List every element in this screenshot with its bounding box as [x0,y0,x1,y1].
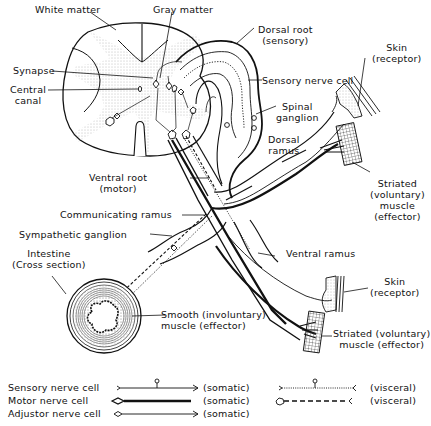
label-communicating-ramus: Communicating ramus [60,209,172,220]
communicating-ramus [116,208,226,302]
label-ventral-root: Ventral root (motor) [89,172,147,194]
label-spinal-ganglion: Spinal ganglion [276,101,319,123]
label-striated-top-line4: (effector) [370,211,425,222]
label-smooth-muscle-line2: muscle (effector) [161,320,266,331]
ganglion-cell [252,116,257,121]
label-ventral-root-line2: (motor) [89,183,147,194]
spinal-reflex-diagram: White matter Gray matter Dorsal root (se… [0,0,431,426]
label-central-canal-line2: canal [10,95,46,106]
label-skin-top-line2: (receptor) [372,53,422,64]
label-synapse: Synapse [13,65,55,76]
ganglion-cell [252,126,257,131]
label-gray-matter: Gray matter [153,4,213,15]
label-striated-top-line1: Striated [370,178,425,189]
label-striated-bottom-line2: muscle (effector) [333,339,430,350]
label-dorsal-ramus: Dorsal ramus [268,134,300,156]
label-dorsal-ramus-line2: ramus [268,145,300,156]
label-striated-bottom-line1: Striated (voluntary) [333,328,430,339]
label-dorsal-root-line2: (sensory) [258,35,313,46]
label-skin-bottom-line1: Skin [370,276,420,287]
legend-motor-somatic: (somatic) [203,395,250,406]
label-striated-bottom: Striated (voluntary) muscle (effector) [333,328,430,350]
label-ventral-ramus: Ventral ramus [286,248,355,259]
label-dorsal-root-line1: Dorsal root [258,24,313,35]
label-intestine-line2: (Cross section) [12,259,86,270]
legend-sensory-visceral: (visceral) [370,382,416,393]
legend-motor-label: Motor nerve cell [8,395,88,406]
label-central-canal-line1: Central [10,84,46,95]
legend-adjustor-somatic: (somatic) [203,408,250,419]
legend-adjustor-label: Adjustor nerve cell [8,408,101,419]
legend-sensory-somatic: (somatic) [203,382,250,393]
label-white-matter: White matter [35,4,100,15]
legend-sensory-label: Sensory nerve cell [8,382,99,393]
legend-motor-visceral: (visceral) [370,395,416,406]
central-canal [138,86,141,91]
label-spinal-ganglion-line2: ganglion [276,112,319,123]
label-smooth-muscle-line1: Smooth (involuntary) [161,309,266,320]
label-striated-top: Striated (voluntary) muscle (effector) [370,178,425,222]
label-dorsal-ramus-line1: Dorsal [268,134,300,145]
label-skin-bottom: Skin (receptor) [370,276,420,298]
label-intestine: Intestine (Cross section) [12,248,86,270]
label-intestine-line1: Intestine [12,248,86,259]
label-smooth-muscle: Smooth (involuntary) muscle (effector) [161,309,266,331]
ganglion-cell [225,123,230,128]
label-skin-top-line1: Skin [372,42,422,53]
striated-muscle-top [336,123,362,166]
label-spinal-ganglion-line1: Spinal [276,101,319,112]
intestine [67,279,141,353]
label-dorsal-root: Dorsal root (sensory) [258,24,313,46]
label-skin-bottom-line2: (receptor) [370,287,420,298]
label-skin-top: Skin (receptor) [372,42,422,64]
label-striated-top-line2: (voluntary) [370,189,425,200]
label-central-canal: Central canal [10,84,46,106]
label-ventral-root-line1: Ventral root [89,172,147,183]
label-sympathetic-ganglion: Sympathetic ganglion [19,229,127,240]
skin-receptor-bottom [322,276,344,312]
label-sensory-nerve-cell: Sensory nerve cell [262,75,353,86]
striated-muscle-bottom [303,311,324,353]
label-striated-top-line3: muscle [370,200,425,211]
